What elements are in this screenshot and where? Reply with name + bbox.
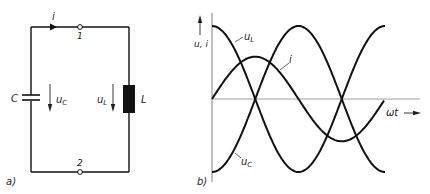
y-axis-label: u, i bbox=[194, 39, 208, 49]
capacitor-voltage-arrow-icon bbox=[48, 84, 52, 112]
inductor-symbol bbox=[123, 85, 135, 113]
inductor-voltage-label: uL bbox=[97, 94, 107, 107]
inductor-label: L bbox=[141, 94, 147, 105]
current-arrow-icon bbox=[50, 24, 57, 31]
capacitor-label: C bbox=[11, 93, 18, 104]
u-L-curve-label: uL bbox=[244, 31, 254, 44]
capacitor-symbol bbox=[22, 95, 40, 100]
node-2-label: 2 bbox=[77, 158, 83, 168]
capacitor-voltage-label: uC bbox=[56, 94, 67, 107]
oscillating-circuit-figure: C L i 1 2 uC uL a) bbox=[0, 0, 430, 194]
inductor-voltage-arrow-icon bbox=[111, 84, 115, 112]
i-curve-label: i bbox=[289, 54, 292, 65]
y-axis-arrow-icon bbox=[198, 15, 202, 35]
node-2-terminal bbox=[78, 170, 83, 175]
current-label: i bbox=[52, 11, 55, 22]
node-1-terminal bbox=[78, 25, 83, 30]
waveform-chart: u, i ωt uL i uC b) bbox=[194, 13, 421, 187]
node-1-label: 1 bbox=[77, 31, 83, 41]
circuit-diagram: C L i 1 2 uC uL a) bbox=[6, 11, 147, 187]
panel-a-label: a) bbox=[6, 176, 16, 187]
panel-b-label: b) bbox=[197, 176, 207, 187]
u-L-leader-line bbox=[235, 37, 243, 42]
u-C-curve-label: uC bbox=[241, 156, 252, 169]
x-axis-arrow-icon bbox=[404, 111, 421, 115]
x-axis-label: ωt bbox=[386, 107, 399, 118]
i-leader-line bbox=[280, 63, 289, 70]
